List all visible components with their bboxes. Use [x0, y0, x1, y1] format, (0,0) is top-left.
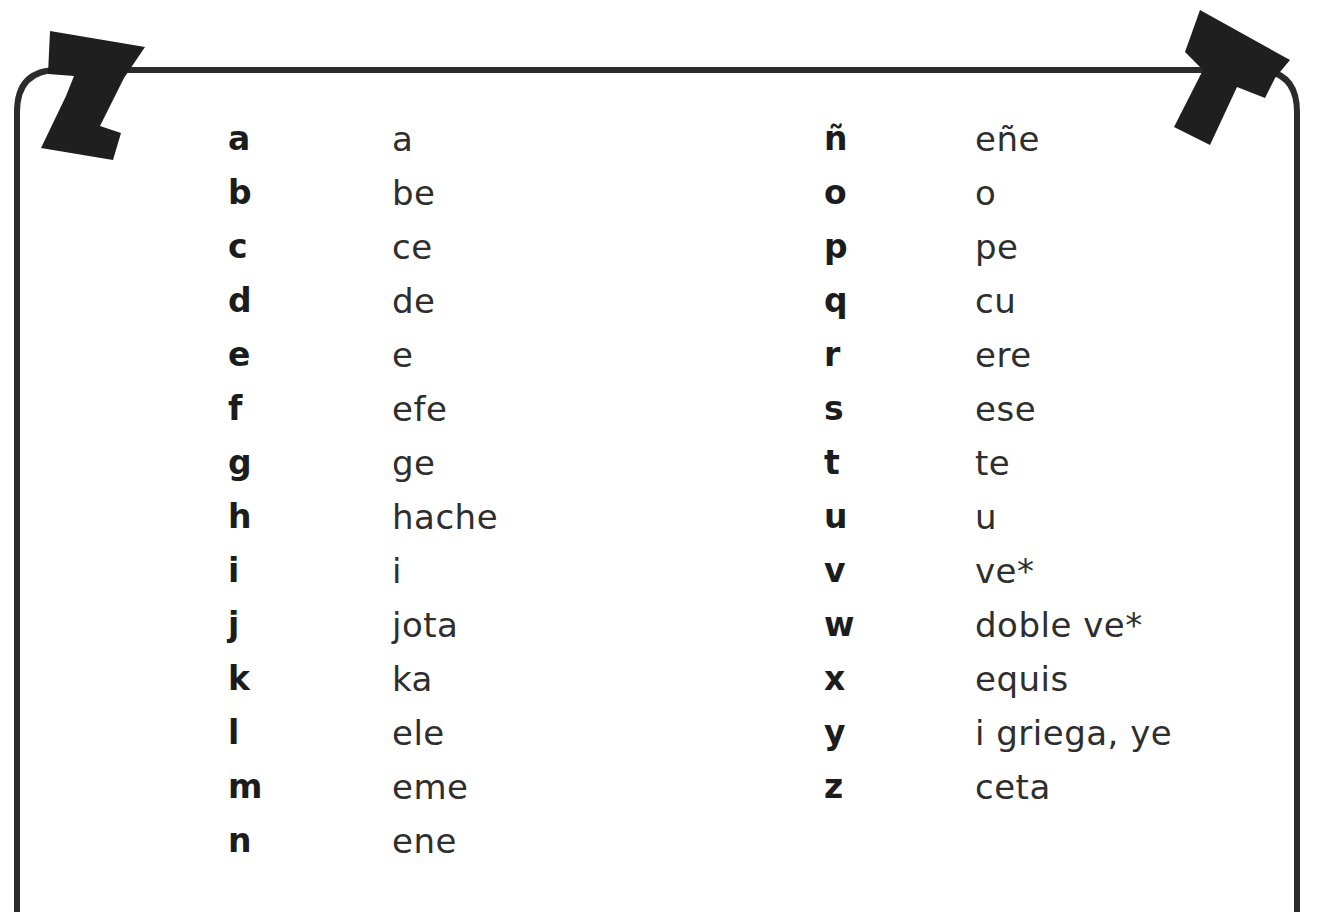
- alphabet-row: ii: [228, 544, 648, 598]
- letter-name: ele: [392, 706, 445, 760]
- letter: z: [824, 760, 843, 814]
- letter-name: eme: [392, 760, 468, 814]
- letter: e: [228, 328, 250, 382]
- letter: i: [228, 544, 239, 598]
- letter-name: efe: [392, 382, 447, 436]
- letter: v: [824, 544, 846, 598]
- letter-name: ka: [392, 652, 433, 706]
- letter: h: [228, 490, 252, 544]
- alphabet-row: nene: [228, 814, 648, 868]
- letter: w: [824, 598, 855, 652]
- letter: k: [228, 652, 250, 706]
- letter: u: [824, 490, 848, 544]
- alphabet-row: ee: [228, 328, 648, 382]
- alphabet-row: qcu: [824, 274, 1244, 328]
- letter: a: [228, 112, 250, 166]
- alphabet-row: vve*: [824, 544, 1244, 598]
- letter: f: [228, 382, 242, 436]
- letter: x: [824, 652, 845, 706]
- letter: b: [228, 166, 252, 220]
- letter: q: [824, 274, 848, 328]
- letter-name: be: [392, 166, 436, 220]
- letter-name: ce: [392, 220, 433, 274]
- alphabet-row: xequis: [824, 652, 1244, 706]
- letter: s: [824, 382, 844, 436]
- alphabet-row: rere: [824, 328, 1244, 382]
- letter: r: [824, 328, 840, 382]
- alphabet-row: jjota: [228, 598, 648, 652]
- letter: j: [228, 598, 239, 652]
- alphabet-row: zceta: [824, 760, 1244, 814]
- letter: c: [228, 220, 248, 274]
- letter: p: [824, 220, 848, 274]
- letter: t: [824, 436, 840, 490]
- letter-name: pe: [975, 220, 1019, 274]
- alphabet-row: dde: [228, 274, 648, 328]
- letter-name: te: [975, 436, 1010, 490]
- letter: ñ: [824, 112, 848, 166]
- alphabet-row: yi griega, ye: [824, 706, 1244, 760]
- letter-name: hache: [392, 490, 498, 544]
- letter-name: ene: [392, 814, 457, 868]
- letter: d: [228, 274, 252, 328]
- alphabet-row: wdoble ve*: [824, 598, 1244, 652]
- letter-name: a: [392, 112, 413, 166]
- letter-name: e: [392, 328, 413, 382]
- letter-name: i griega, ye: [975, 706, 1172, 760]
- letter-name: ve*: [975, 544, 1035, 598]
- letter-name: i: [392, 544, 402, 598]
- letter-name: u: [975, 490, 997, 544]
- alphabet-row: kka: [228, 652, 648, 706]
- letter-name: cu: [975, 274, 1016, 328]
- alphabet-row: bbe: [228, 166, 648, 220]
- letter-name: ge: [392, 436, 436, 490]
- letter: l: [228, 706, 239, 760]
- alphabet-row: ppe: [824, 220, 1244, 274]
- letter: m: [228, 760, 262, 814]
- letter-name: eñe: [975, 112, 1040, 166]
- alphabet-row: hhache: [228, 490, 648, 544]
- alphabet-row: lele: [228, 706, 648, 760]
- alphabet-row: ñeñe: [824, 112, 1244, 166]
- alphabet-row: meme: [228, 760, 648, 814]
- alphabet-row: aa: [228, 112, 648, 166]
- alphabet-row: sese: [824, 382, 1244, 436]
- letter: g: [228, 436, 252, 490]
- letter-name: o: [975, 166, 996, 220]
- alphabet-row: uu: [824, 490, 1244, 544]
- alphabet-row: cce: [228, 220, 648, 274]
- letter-name: ere: [975, 328, 1032, 382]
- letter: n: [228, 814, 252, 868]
- letter-name: ese: [975, 382, 1036, 436]
- letter-name: de: [392, 274, 436, 328]
- alphabet-table: aa bbe cce dde ee fefe gge hhache ii jjo…: [0, 0, 1319, 912]
- alphabet-column-right: ñeñe oo ppe qcu rere sese tte uu vve* wd…: [824, 112, 1244, 814]
- alphabet-row: tte: [824, 436, 1244, 490]
- alphabet-row: oo: [824, 166, 1244, 220]
- letter-name: doble ve*: [975, 598, 1143, 652]
- letter: o: [824, 166, 847, 220]
- letter-name: jota: [392, 598, 458, 652]
- alphabet-column-left: aa bbe cce dde ee fefe gge hhache ii jjo…: [228, 112, 648, 868]
- alphabet-row: gge: [228, 436, 648, 490]
- letter: y: [824, 706, 846, 760]
- letter-name: equis: [975, 652, 1069, 706]
- alphabet-row: fefe: [228, 382, 648, 436]
- letter-name: ceta: [975, 760, 1051, 814]
